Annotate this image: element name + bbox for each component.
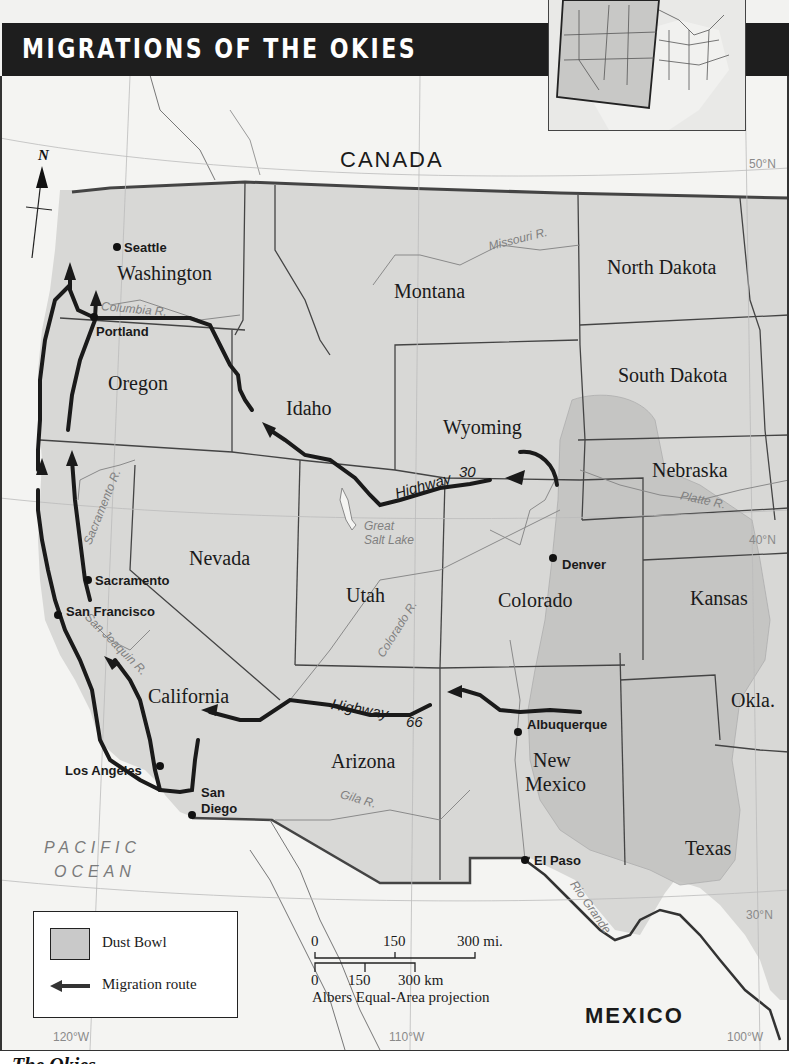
label-los-angeles: Los Angeles bbox=[65, 763, 142, 778]
label-denver: Denver bbox=[562, 557, 606, 572]
scale-mi-150: 150 bbox=[383, 933, 406, 950]
label-lat-30: 30°N bbox=[746, 908, 773, 922]
label-lon-110: 110°W bbox=[389, 1030, 424, 1044]
label-san-diego-1: San bbox=[201, 785, 225, 800]
label-washington: Washington bbox=[117, 262, 212, 285]
label-utah: Utah bbox=[346, 584, 385, 607]
inset-locator-map bbox=[548, 0, 746, 131]
dust-bowl-swatch bbox=[50, 928, 90, 960]
label-texas: Texas bbox=[685, 837, 731, 860]
label-california: California bbox=[148, 685, 229, 708]
north-label: N bbox=[38, 147, 49, 164]
caption-bar: The Okies bbox=[0, 1050, 789, 1064]
label-colorado: Colorado bbox=[498, 589, 572, 612]
label-kansas: Kansas bbox=[690, 587, 748, 610]
label-great-salt-lake-2: Salt Lake bbox=[364, 533, 414, 547]
label-highway-30-number: 30 bbox=[459, 463, 476, 480]
scale-projection: Albers Equal-Area projection bbox=[312, 989, 489, 1006]
label-san-diego-2: Diego bbox=[201, 801, 237, 816]
label-lat-40: 40°N bbox=[749, 533, 776, 547]
caption-text: The Okies bbox=[12, 1054, 96, 1064]
label-montana: Montana bbox=[394, 280, 465, 303]
label-canada: CANADA bbox=[340, 147, 444, 173]
label-lon-100: 100°W bbox=[727, 1030, 763, 1044]
legend-migration-route: Migration route bbox=[102, 976, 197, 993]
label-el-paso: El Paso bbox=[534, 853, 581, 868]
label-sacramento: Sacramento bbox=[95, 573, 169, 588]
label-oklahoma: Okla. bbox=[731, 689, 775, 712]
label-pacific-ocean-1: PACIFIC bbox=[44, 836, 141, 860]
scale-km-0: 0 bbox=[311, 972, 319, 989]
label-mexico: MEXICO bbox=[585, 1003, 684, 1029]
map-title: MIGRATIONS OF THE OKIES bbox=[22, 33, 417, 64]
label-wyoming: Wyoming bbox=[443, 416, 522, 439]
scale-km-150: 150 bbox=[348, 972, 371, 989]
left-border bbox=[0, 76, 2, 1051]
label-arizona: Arizona bbox=[331, 750, 395, 773]
label-idaho: Idaho bbox=[286, 397, 332, 420]
label-san-francisco: San Francisco bbox=[66, 604, 155, 619]
label-new-mexico-2: Mexico bbox=[525, 773, 586, 796]
label-lon-120: 120°W bbox=[53, 1030, 89, 1044]
label-lat-50: 50°N bbox=[749, 157, 776, 171]
arrow-left-icon bbox=[50, 979, 92, 993]
scale-mi-300: 300 mi. bbox=[457, 933, 503, 950]
label-south-dakota: South Dakota bbox=[618, 364, 727, 387]
legend: Dust Bowl Migration route bbox=[33, 911, 238, 1018]
label-albuquerque: Albuquerque bbox=[527, 717, 607, 732]
label-highway-66-number: 66 bbox=[406, 713, 423, 730]
label-north-dakota: North Dakota bbox=[607, 256, 716, 279]
label-nebraska: Nebraska bbox=[652, 459, 728, 482]
legend-dust-bowl: Dust Bowl bbox=[102, 934, 167, 951]
label-oregon: Oregon bbox=[108, 372, 168, 395]
label-new-mexico-1: New bbox=[533, 749, 571, 772]
label-seattle: Seattle bbox=[124, 240, 167, 255]
label-portland: Portland bbox=[96, 324, 149, 339]
scale-km-300: 300 km bbox=[398, 972, 443, 989]
label-great-salt-lake-1: Great bbox=[364, 519, 394, 533]
scale-mi-0: 0 bbox=[311, 933, 319, 950]
label-nevada: Nevada bbox=[189, 547, 250, 570]
label-pacific-ocean-2: OCEAN bbox=[54, 860, 136, 884]
